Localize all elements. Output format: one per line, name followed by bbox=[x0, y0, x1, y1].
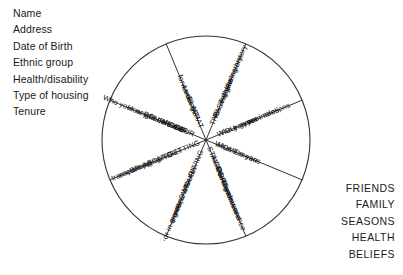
segment-detail: convenience bbox=[223, 189, 248, 232]
diagram-canvas: Name Address Date of Birth Ethnic group … bbox=[0, 0, 403, 275]
segment-detail: person bbox=[168, 198, 185, 223]
wheel-segment-labels: THEPASTYou and youroriginse.g. life hist… bbox=[102, 43, 292, 243]
segment-heading: OWN bbox=[177, 181, 192, 202]
list-item: Address bbox=[13, 22, 89, 36]
wheel-segment-your-neighbourhood: YOURNEIGH-BOURHOODHow you define itWho y… bbox=[102, 93, 196, 139]
segment-divider bbox=[206, 140, 246, 236]
list-item: BELIEFS bbox=[349, 247, 395, 262]
segment-detail: transport bbox=[110, 163, 142, 183]
segment-detail: e.g. life history, bbox=[217, 53, 245, 104]
list-item: SEASONS bbox=[341, 214, 395, 229]
segment-detail: socialising bbox=[117, 158, 153, 180]
segment-detail: Who you are bbox=[216, 114, 260, 139]
segment-divider bbox=[166, 44, 206, 140]
segment-divider bbox=[206, 44, 246, 140]
wheel-segment-home: HOMEWhat it meansto you bbox=[213, 139, 262, 166]
segment-heading: LIVING bbox=[187, 148, 205, 175]
segment-detail: housing history bbox=[221, 43, 249, 95]
segment-heading: NEIGH- bbox=[160, 117, 189, 136]
wheel-outline bbox=[102, 36, 310, 244]
segment-heading: OUT bbox=[165, 145, 184, 160]
segment-divider bbox=[206, 140, 302, 180]
segment-heading: AND bbox=[155, 149, 173, 163]
list-item: Ethnic group bbox=[13, 55, 89, 69]
list-item: HEALTH bbox=[352, 230, 395, 245]
segment-detail: Feeling secure bbox=[214, 166, 242, 216]
list-item: Date of Birth bbox=[13, 39, 89, 53]
segment-detail: Looking bbox=[180, 84, 199, 112]
segment-detail: origins bbox=[218, 76, 235, 101]
segment-detail: How you define it bbox=[126, 103, 184, 134]
wheel-segment-the-past: THEPASTYou and youroriginse.g. life hist… bbox=[208, 43, 249, 126]
list-item: Tenure bbox=[13, 104, 89, 118]
segment-heading: WHAT bbox=[189, 106, 206, 130]
segment-detail: e.g. your roles, bbox=[231, 104, 282, 132]
wheel-geometry bbox=[102, 36, 310, 244]
segment-detail: You and your bbox=[210, 76, 236, 121]
segment-heading: PAST bbox=[211, 97, 227, 119]
segment-heading: THE bbox=[208, 109, 222, 127]
segment-detail: Comfort and bbox=[219, 179, 244, 222]
segment-heading: YOU bbox=[218, 123, 237, 138]
segment-heading: YOUR bbox=[172, 122, 196, 139]
context-keyword-list: FRIENDS FAMILY SEASONS HEALTH BELIEFS bbox=[341, 181, 395, 262]
segment-divider bbox=[110, 140, 206, 180]
segment-detail: forwards bbox=[176, 73, 196, 104]
personal-details-list: Name Address Date of Birth Ethnic group … bbox=[13, 6, 89, 119]
list-item: FRIENDS bbox=[346, 181, 395, 196]
list-item: Name bbox=[13, 6, 89, 20]
segment-detail: -or in a group bbox=[159, 197, 185, 243]
list-item: FAMILY bbox=[356, 197, 395, 212]
segment-divider bbox=[166, 140, 206, 236]
list-item: Type of housing bbox=[13, 88, 89, 102]
segment-detail: Routines bbox=[214, 165, 234, 197]
segment-divider bbox=[206, 100, 302, 140]
wheel-segment-living-on-your-own: LIVINGONYOUROWN-or with anotherperson-or… bbox=[159, 148, 205, 243]
list-item: Health/disability bbox=[13, 72, 89, 86]
segment-detail: your intentions bbox=[242, 100, 292, 128]
segment-heading: BOURHOOD bbox=[142, 110, 187, 135]
segment-detail: now bbox=[239, 115, 256, 129]
segment-detail: Who your neighbours are? bbox=[102, 93, 189, 136]
wheel-segment-staying-indoors: STAYINGINDOORSRoutinesFeeling secureComf… bbox=[205, 145, 248, 232]
segment-heading: ABOUT bbox=[141, 151, 169, 169]
segment-heading: ON bbox=[186, 164, 199, 178]
segment-heading: ELSE? bbox=[185, 95, 202, 120]
wheel-segment-you: YOUWho you arenowe.g. your roles,your in… bbox=[216, 100, 292, 138]
wheel-segment-getting-out-and-about: GETTINGOUTANDABOUTShoppingsocialisingtra… bbox=[110, 138, 201, 183]
segment-heading: STAYING bbox=[205, 145, 226, 178]
wheel-segment-what-else: WHATELSE?Lookingforwards bbox=[176, 73, 206, 130]
segment-divider bbox=[110, 100, 206, 140]
segment-heading: HOME bbox=[216, 140, 240, 157]
segment-detail: What it means bbox=[213, 139, 262, 166]
segment-detail: to you bbox=[236, 148, 259, 164]
segment-heading: YOUR bbox=[180, 169, 197, 193]
segment-detail: -or with another bbox=[166, 174, 195, 227]
segment-heading: INDOORS bbox=[209, 153, 231, 189]
segment-detail: Shopping bbox=[128, 154, 161, 175]
segment-heading: GETTING bbox=[166, 138, 201, 159]
